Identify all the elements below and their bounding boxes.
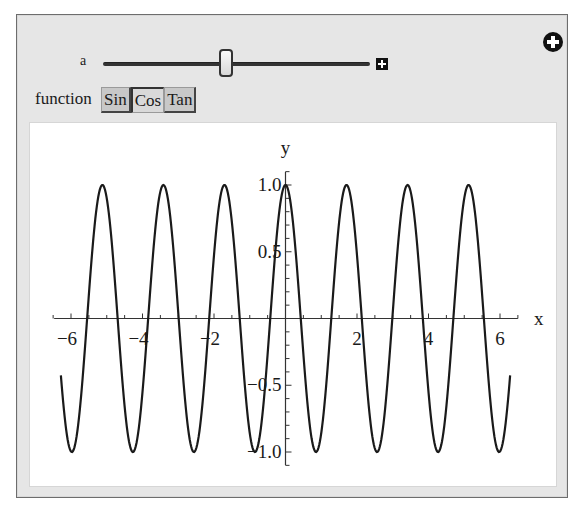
function-button-tan[interactable]: Tan xyxy=(164,87,196,113)
add-panel-button[interactable] xyxy=(543,32,563,52)
function-setter-bar: Sin Cos Tan xyxy=(101,87,196,113)
function-button-cos[interactable]: Cos xyxy=(131,87,164,113)
slider-label-a: a xyxy=(80,53,86,69)
slider-thumb[interactable] xyxy=(219,49,233,77)
function-button-sin[interactable]: Sin xyxy=(101,87,131,113)
plot-area xyxy=(29,122,557,487)
slider-expand-button[interactable] xyxy=(376,58,388,70)
slider-track[interactable] xyxy=(103,62,370,66)
function-label: function xyxy=(35,89,92,109)
